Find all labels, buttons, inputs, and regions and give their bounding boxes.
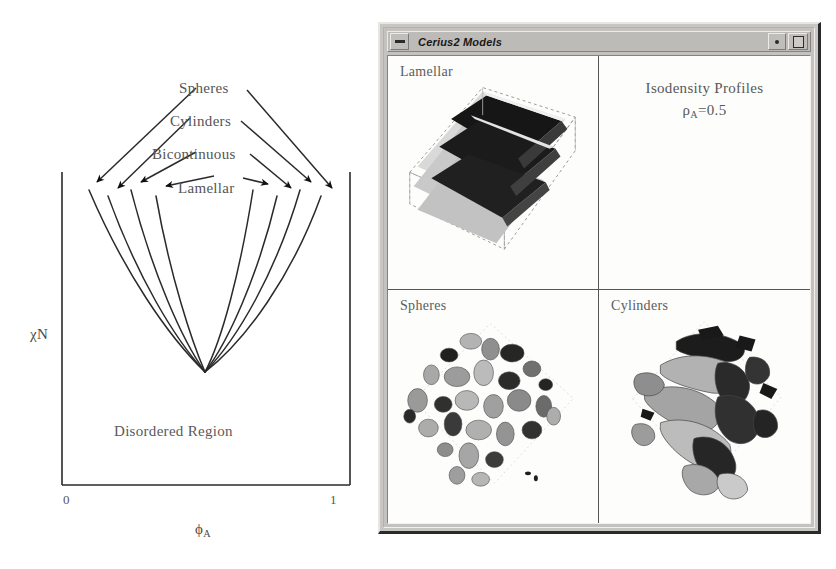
maximize-box-icon [793,36,804,48]
isodensity-heading: Isodensity Profiles ρA=0.5 [599,78,810,122]
maximize-button[interactable] [788,33,808,50]
phase-label-spheres: Spheres [179,80,229,97]
quadrant-label-lamellar: Lamellar [400,64,453,80]
window-menu-icon[interactable] [390,33,409,50]
phase-diagram-figure: Spheres Cylinders Bicontinuous Lamellar … [0,0,378,569]
cylinders-isosurface-art [599,290,810,514]
x-axis-label: ϕA [195,521,211,539]
isodensity-heading-line-2: ρA=0.5 [599,100,810,122]
cerius2-models-window[interactable]: Cerius2 Models [378,22,821,534]
phase-label-bicontinuous: Bicontinuous [152,146,236,163]
window-menu-bar-glyph [395,40,405,43]
x-axis-label-subscript: A [203,528,211,539]
odt-curves [89,190,321,372]
disordered-region-label: Disordered Region [114,423,233,440]
rho-subscript: A [690,108,698,119]
rho-value: =0.5 [698,102,726,118]
window-title: Cerius2 Models [409,36,766,48]
phase-label-lamellar: Lamellar [178,180,235,197]
quadrant-isodensity[interactable]: Isodensity Profiles ρA=0.5 [599,56,810,290]
minimize-dot-icon [775,40,779,44]
spheres-isosurface-art [388,290,598,513]
quadrant-label-cylinders: Cylinders [611,298,668,314]
lamellar-slabs-3d-art [388,56,598,279]
quadrant-spheres[interactable]: Spheres [388,290,599,524]
window-inner-frame: Cerius2 Models [383,27,815,528]
quadrant-lamellar[interactable]: Lamellar [388,56,599,290]
window-titlebar[interactable]: Cerius2 Models [387,31,811,52]
y-axis-label: χN [30,326,48,343]
model-canvas[interactable]: Lamellar Isodensity Profiles ρA=0.5 [387,55,811,524]
minimize-button[interactable] [768,33,786,50]
isodensity-heading-line-1: Isodensity Profiles [599,78,810,100]
x-axis-tick-min: 0 [63,492,70,508]
label-leader-lines [97,88,332,188]
quadrant-cylinders[interactable]: Cylinders [599,290,810,524]
quadrant-label-spheres: Spheres [400,298,446,314]
phase-label-cylinders: Cylinders [170,113,231,130]
x-axis-tick-max: 1 [330,492,337,508]
x-axis-label-base: ϕ [195,521,203,537]
